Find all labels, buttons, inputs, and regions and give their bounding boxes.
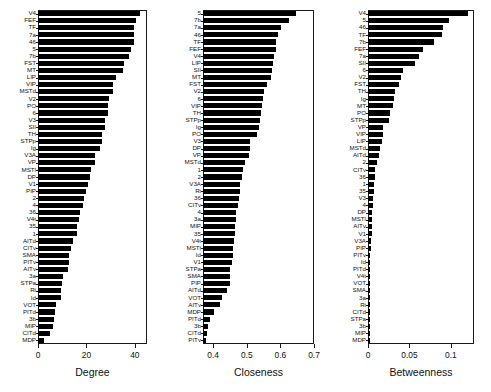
y-axis-label: 36 bbox=[327, 174, 366, 180]
bar-row bbox=[38, 196, 147, 201]
bar-row bbox=[38, 174, 147, 179]
bar-row bbox=[203, 260, 314, 265]
bar bbox=[38, 288, 61, 293]
bar-row bbox=[368, 167, 474, 172]
bar-row bbox=[368, 224, 474, 229]
bar-row bbox=[368, 32, 474, 37]
bar-row bbox=[368, 125, 474, 130]
x-tick-label: 0 bbox=[366, 350, 371, 360]
bar bbox=[368, 189, 374, 194]
bar-row bbox=[38, 210, 147, 215]
bar bbox=[38, 331, 50, 336]
bar-row bbox=[38, 238, 147, 243]
bar-row bbox=[368, 25, 474, 30]
bar-row bbox=[203, 203, 314, 208]
x-tick-mark bbox=[368, 344, 369, 348]
bar bbox=[368, 160, 377, 165]
bar bbox=[38, 302, 56, 307]
y-axis-label: PITv bbox=[165, 337, 201, 343]
bar bbox=[203, 110, 261, 115]
bar bbox=[38, 103, 108, 108]
bar-row bbox=[368, 324, 474, 329]
bar-row bbox=[203, 267, 314, 272]
bar bbox=[368, 82, 399, 87]
bar-row bbox=[203, 110, 314, 115]
y-axis-label: 46 bbox=[327, 24, 366, 30]
bar bbox=[38, 217, 79, 222]
bar-row bbox=[38, 61, 147, 66]
x-tick-mark bbox=[409, 344, 410, 348]
bar bbox=[203, 224, 235, 229]
bar-row bbox=[38, 189, 147, 194]
bar-row bbox=[203, 182, 314, 187]
bar-row bbox=[38, 68, 147, 73]
bar bbox=[203, 253, 233, 258]
bar-row bbox=[38, 324, 147, 329]
y-axis-label: 1 bbox=[0, 231, 36, 237]
y-axis-label: AITv bbox=[165, 302, 201, 308]
bar bbox=[38, 274, 63, 279]
bar bbox=[38, 167, 91, 172]
bar bbox=[38, 47, 131, 52]
bar-row bbox=[368, 54, 474, 59]
bar bbox=[203, 68, 272, 73]
x-tick-mark bbox=[451, 344, 452, 348]
bar bbox=[38, 295, 61, 300]
bar bbox=[38, 118, 105, 123]
bar-row bbox=[368, 39, 474, 44]
bar bbox=[38, 281, 62, 286]
bar bbox=[368, 274, 370, 279]
bar bbox=[203, 11, 296, 16]
bar-row bbox=[38, 331, 147, 336]
y-axis-label: MIP bbox=[165, 223, 201, 229]
bar bbox=[368, 146, 380, 151]
bar bbox=[203, 246, 233, 251]
bar bbox=[38, 96, 109, 101]
bar-row bbox=[368, 196, 474, 201]
bar-row bbox=[368, 189, 474, 194]
bar bbox=[203, 324, 208, 329]
bar bbox=[368, 253, 370, 258]
y-axis-label: PO bbox=[327, 110, 366, 116]
bar bbox=[368, 203, 373, 208]
bar bbox=[368, 153, 379, 158]
bar bbox=[203, 274, 230, 279]
bar bbox=[203, 153, 249, 158]
bar bbox=[38, 25, 134, 30]
y-axis-label: 7a bbox=[165, 24, 201, 30]
bar-row bbox=[368, 11, 474, 16]
bar-row bbox=[203, 54, 314, 59]
x-tick-label: 40 bbox=[130, 350, 139, 360]
bar bbox=[368, 309, 370, 314]
bar-row bbox=[38, 231, 147, 236]
bar-row bbox=[368, 267, 474, 272]
bar bbox=[368, 210, 372, 215]
bar bbox=[368, 238, 371, 243]
bar bbox=[203, 210, 236, 215]
bar-row bbox=[368, 103, 474, 108]
bar bbox=[38, 246, 71, 251]
bar-row bbox=[203, 39, 314, 44]
bar bbox=[203, 182, 240, 187]
bar bbox=[38, 68, 123, 73]
y-axis-label: 35 bbox=[0, 223, 36, 229]
bar-row bbox=[38, 54, 147, 59]
bar bbox=[203, 96, 263, 101]
y-axis-label: DP bbox=[0, 174, 36, 180]
bar bbox=[203, 103, 262, 108]
bar bbox=[203, 196, 239, 201]
bar bbox=[38, 18, 136, 23]
bar bbox=[203, 317, 210, 322]
bar-row bbox=[368, 96, 474, 101]
bar-row bbox=[38, 11, 147, 16]
betweenness-panel: V4546TF7bFEF7aSII6V2FSTTHIgMTPOSTPpVPVIP… bbox=[327, 0, 491, 392]
bar-row bbox=[203, 125, 314, 130]
bar-row bbox=[38, 302, 147, 307]
bar-row bbox=[38, 260, 147, 265]
bar-row bbox=[368, 331, 474, 336]
bar-row bbox=[203, 274, 314, 279]
bar-row bbox=[203, 196, 314, 201]
bar-chart-figure: V4FEFTF7a4657bFSTMTLIPVIPMSTdV2PO6V3SIIT… bbox=[0, 0, 491, 392]
bar bbox=[203, 260, 232, 265]
bar bbox=[203, 288, 227, 293]
